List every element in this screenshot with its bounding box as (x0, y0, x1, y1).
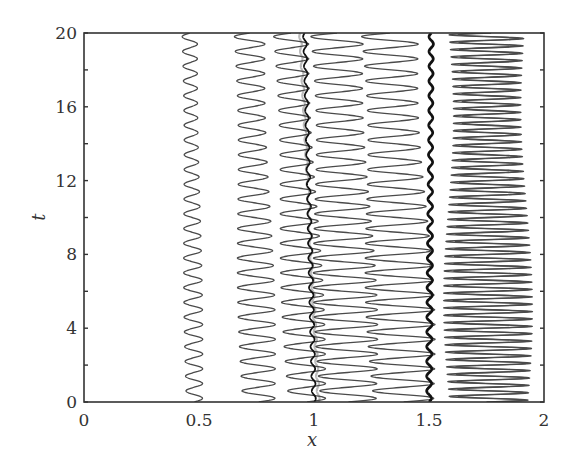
front-near-1.5 (427, 33, 434, 402)
x-tick-label: 1 (309, 410, 320, 430)
y-tick-label: 12 (55, 171, 77, 191)
y-tick-label: 16 (55, 97, 77, 117)
trajectory-2 (234, 33, 275, 402)
x-tick-label: 0 (79, 410, 90, 430)
chart: 00.511.52 048121620 x t (0, 0, 583, 474)
x-tick-labels: 00.511.52 (79, 410, 550, 430)
y-tick-label: 0 (66, 392, 77, 412)
y-tick-label: 20 (55, 23, 77, 43)
y-tick-labels: 048121620 (55, 23, 77, 412)
x-axis-label: x (307, 429, 317, 450)
trajectory-traces (182, 33, 532, 402)
trajectory-3 (274, 33, 326, 402)
x-tick-label: 1.5 (415, 410, 442, 430)
y-tick-label: 4 (66, 318, 77, 338)
x-tick-label: 2 (539, 410, 550, 430)
trajectory-1 (182, 33, 203, 402)
trajectory-5 (362, 33, 435, 402)
y-tick-label: 8 (66, 244, 77, 264)
y-axis-label: t (28, 213, 49, 221)
x-tick-label: 0.5 (185, 410, 212, 430)
